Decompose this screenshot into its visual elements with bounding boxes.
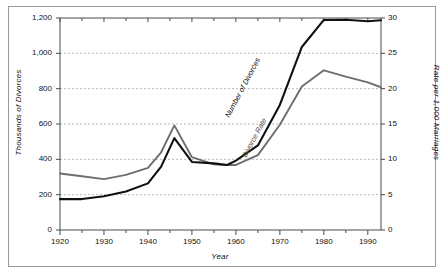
y-tick-label-left: 600 xyxy=(18,119,52,128)
y-tick-label-left: 1,000 xyxy=(18,48,52,57)
x-tick-label: 1990 xyxy=(348,237,388,246)
x-tick-label: 1930 xyxy=(84,237,124,246)
x-tick-label: 1970 xyxy=(260,237,300,246)
y-tick-label-left: 200 xyxy=(18,190,52,199)
y-tick-label-right: 5 xyxy=(388,190,418,199)
y-axis-title-right: Rate per 1,000 Marriages xyxy=(432,58,441,168)
y-axis-title-left: Thousands of Divorces xyxy=(14,58,23,168)
x-tick-label: 1920 xyxy=(40,237,80,246)
x-tick-label: 1950 xyxy=(172,237,212,246)
x-tick-label: 1960 xyxy=(216,237,256,246)
y-tick-label-right: 10 xyxy=(388,154,418,163)
y-tick-label-right: 0 xyxy=(388,225,418,234)
y-tick-label-right: 30 xyxy=(388,13,418,22)
x-tick-label: 1940 xyxy=(128,237,168,246)
y-tick-label-left: 1,200 xyxy=(18,13,52,22)
chart-figure: Thousands of Divorces Rate per 1,000 Mar… xyxy=(0,0,447,279)
y-tick-label-right: 15 xyxy=(388,119,418,128)
y-tick-label-right: 20 xyxy=(388,84,418,93)
x-tick-label: 1980 xyxy=(304,237,344,246)
y-tick-label-left: 400 xyxy=(18,154,52,163)
x-axis-title: Year xyxy=(60,252,380,261)
y-tick-label-right: 25 xyxy=(388,48,418,57)
y-tick-label-left: 800 xyxy=(18,84,52,93)
y-tick-label-left: 0 xyxy=(18,225,52,234)
